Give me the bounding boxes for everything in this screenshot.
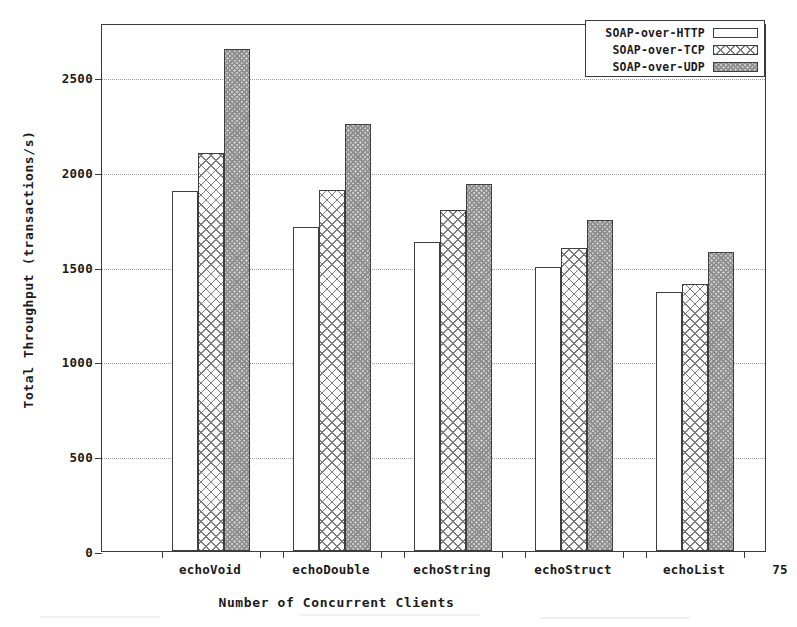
y-axis-tick xyxy=(95,79,102,80)
x-axis-title: Number of Concurrent Clients xyxy=(0,595,797,610)
bar-soap-over-tcp-echovoid xyxy=(198,153,224,551)
y-axis-tick xyxy=(95,553,102,554)
x-axis-tick xyxy=(404,551,405,558)
x-axis-tick xyxy=(283,551,284,558)
bar-soap-over-http-echovoid xyxy=(172,191,198,551)
bar-soap-over-http-echostring xyxy=(414,242,440,551)
bar-soap-over-tcp-echodouble xyxy=(319,190,345,551)
legend-swatch xyxy=(713,62,758,72)
legend-label: SOAP-over-UDP xyxy=(612,60,705,74)
y-axis-tick xyxy=(95,269,102,270)
x-axis-end-label: 75 xyxy=(772,562,787,577)
legend-item: SOAP-over-UDP xyxy=(586,59,758,75)
plot-area xyxy=(101,24,766,552)
bar-soap-over-udp-echostruct xyxy=(587,220,613,551)
gridline xyxy=(102,79,765,80)
x-axis-tick xyxy=(646,551,647,558)
y-axis-tick-label: 500 xyxy=(23,450,93,465)
legend-label: SOAP-over-HTTP xyxy=(605,26,705,40)
y-axis-tick-label: 0 xyxy=(23,545,93,560)
legend-swatch xyxy=(713,28,758,38)
x-axis-tick xyxy=(260,551,261,558)
x-axis-tick xyxy=(744,551,745,558)
bar-soap-over-udp-echovoid xyxy=(224,49,250,551)
x-axis-tick xyxy=(525,551,526,558)
y-axis-tick xyxy=(95,458,102,459)
bar-soap-over-tcp-echolist xyxy=(682,284,708,551)
x-axis-tick-label-echolist: echoList xyxy=(663,562,725,577)
bar-soap-over-udp-echostring xyxy=(466,184,492,551)
x-axis-tick-label-echodouble: echoDouble xyxy=(292,562,369,577)
bar-soap-over-udp-echolist xyxy=(708,252,734,551)
legend-swatch xyxy=(713,45,758,55)
x-axis-tick-label-echostring: echoString xyxy=(413,562,490,577)
legend-item: SOAP-over-TCP xyxy=(586,42,758,58)
x-axis-tick xyxy=(381,551,382,558)
scan-artifact xyxy=(40,616,160,618)
y-axis-tick xyxy=(95,174,102,175)
bar-soap-over-http-echolist xyxy=(656,292,682,551)
x-axis-tick xyxy=(623,551,624,558)
y-axis-tick-label: 1000 xyxy=(23,355,93,370)
y-axis-tick-label: 2500 xyxy=(23,71,93,86)
chart-legend: SOAP-over-HTTPSOAP-over-TCPSOAP-over-UDP xyxy=(585,20,765,77)
y-axis-tick-label: 1500 xyxy=(23,260,93,275)
legend-item: SOAP-over-HTTP xyxy=(586,25,758,41)
bar-soap-over-http-echostruct xyxy=(535,267,561,551)
legend-label: SOAP-over-TCP xyxy=(612,43,705,57)
scan-artifact xyxy=(540,617,690,619)
scan-artifact xyxy=(300,614,480,616)
x-axis-tick-label-echostruct: echoStruct xyxy=(534,562,611,577)
x-axis-tick-label-echovoid: echoVoid xyxy=(179,562,241,577)
x-axis-tick xyxy=(502,551,503,558)
bar-soap-over-tcp-echostruct xyxy=(561,248,587,551)
y-axis-tick-label: 2000 xyxy=(23,165,93,180)
bar-soap-over-udp-echodouble xyxy=(345,124,371,551)
x-axis-tick xyxy=(162,551,163,558)
bar-soap-over-http-echodouble xyxy=(293,227,319,551)
y-axis-tick xyxy=(95,363,102,364)
x-axis-title-text: Number of Concurrent Clients xyxy=(219,595,455,610)
bar-soap-over-tcp-echostring xyxy=(440,210,466,551)
chart-figure: Total Throughput (transactions/s) 050010… xyxy=(0,0,797,627)
